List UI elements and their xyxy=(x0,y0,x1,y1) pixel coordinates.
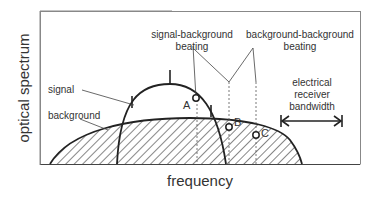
x-axis-label: frequency xyxy=(167,172,233,189)
point-A-label: A xyxy=(183,99,191,111)
sig-bg-label-1: signal-background xyxy=(151,29,233,40)
elec-label-3: bandwidth xyxy=(289,101,335,112)
point-B-label: B xyxy=(234,116,241,128)
point-C xyxy=(253,132,259,138)
bg-bg-label-2: beating xyxy=(284,41,317,52)
pointer-bg-bg-c xyxy=(253,48,256,82)
y-axis-label: optical spectrum xyxy=(15,33,32,142)
signal-label: signal xyxy=(48,84,74,95)
pointer-bg-bg xyxy=(195,48,253,82)
point-B xyxy=(226,124,232,130)
point-C-label: C xyxy=(261,127,269,139)
background-label: background xyxy=(48,110,100,121)
background-spectrum xyxy=(50,118,302,164)
bg-bg-label-1: background-background xyxy=(246,29,354,40)
sig-bg-label-2: beating xyxy=(176,41,209,52)
elec-label-2: receiver xyxy=(294,89,330,100)
point-A xyxy=(193,95,199,101)
pointer-signal xyxy=(82,90,134,105)
diagram-canvas: optical spectrum frequency signal backgr… xyxy=(0,0,376,198)
elec-label-1: electrical xyxy=(292,77,331,88)
